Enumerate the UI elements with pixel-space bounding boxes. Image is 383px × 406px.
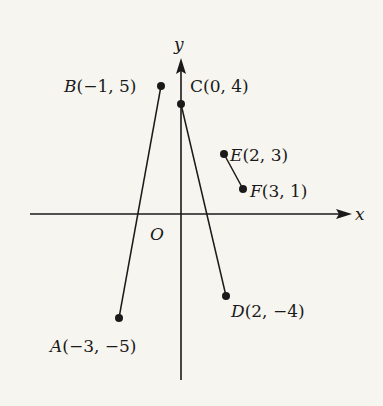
label-e: E(2, 3) — [229, 145, 288, 165]
label-a: A(−3, −5) — [48, 336, 136, 356]
x-axis-label: x — [355, 204, 365, 224]
point-a — [115, 314, 123, 322]
point-e — [220, 150, 228, 158]
label-f: F(3, 1) — [249, 181, 308, 201]
origin-label: O — [150, 224, 164, 244]
label-c: C(0, 4) — [190, 76, 249, 96]
label-b: B(−1, 5) — [63, 76, 136, 96]
point-d — [222, 292, 230, 300]
segment-ab — [119, 86, 161, 318]
point-c — [177, 100, 185, 108]
segment-cd — [181, 104, 226, 296]
point-f — [239, 185, 247, 193]
point-b — [157, 82, 165, 90]
y-axis-label: y — [173, 34, 184, 54]
coordinate-plane: x y O A(−3, −5) B(−1, 5) C(0, 4) D(2, −4… — [0, 0, 383, 406]
label-d: D(2, −4) — [230, 301, 305, 321]
